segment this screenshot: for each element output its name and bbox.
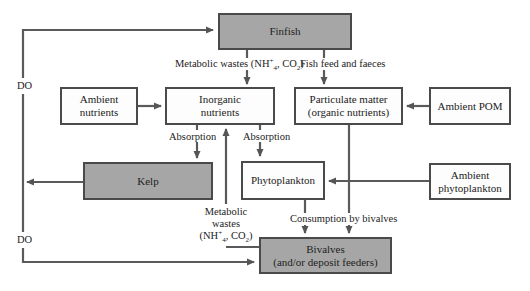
- inorganic-nutrients-label-line1: Inorganic: [199, 93, 241, 106]
- do-to-bivalves-arrow: [23, 248, 254, 262]
- kelp-box: Kelp: [83, 162, 213, 200]
- do-to-finfish-arrow: [23, 30, 213, 78]
- inorganic-nutrients-label-line2: nutrients: [201, 106, 240, 119]
- particulate-matter-label-line2: (organic nutrients): [308, 106, 389, 119]
- finfish-metabolic-wastes-label: Metabolic wastes (NH+4, CO2): [175, 58, 304, 70]
- absorption-left-label: Absorption: [169, 131, 216, 143]
- particulate-matter-label-line1: Particulate matter: [310, 93, 388, 106]
- ambient-pom-box: Ambient POM: [429, 87, 511, 125]
- ambient-nutrients-label-line2: nutrients: [80, 106, 119, 119]
- finfish-label: Finfish: [269, 25, 300, 38]
- inorganic-nutrients-box: Inorganic nutrients: [165, 87, 275, 125]
- ambient-nutrients-label-line1: Ambient: [80, 93, 119, 106]
- phytoplankton-label: Phytoplankton: [251, 174, 315, 187]
- fish-feed-label: Fish feed and faeces: [300, 58, 385, 70]
- ambient-nutrients-box: Ambient nutrients: [60, 87, 138, 125]
- bivalve-metabolic-wastes-label: Metabolic wastes (NH+4, CO2): [195, 206, 257, 242]
- kelp-label: Kelp: [137, 175, 158, 188]
- consumption-label: Consumption by bivalves: [289, 213, 398, 225]
- ambient-pom-label: Ambient POM: [437, 100, 502, 113]
- ambient-phytoplankton-box: Ambient phytoplankton: [429, 163, 511, 200]
- bivalves-label-line1: Bivalves: [306, 243, 345, 256]
- absorption-right-label: Absorption: [243, 131, 290, 143]
- particulate-matter-box: Particulate matter (organic nutrients): [294, 87, 403, 125]
- ambient-phyto-label-line2: phytoplankton: [438, 182, 502, 195]
- bivalves-label-line2: (and/or deposit feeders): [273, 256, 377, 269]
- do-label-top: DO: [17, 80, 32, 92]
- bivalves-box: Bivalves (and/or deposit feeders): [259, 237, 392, 274]
- phytoplankton-box: Phytoplankton: [241, 161, 325, 200]
- finfish-box: Finfish: [218, 13, 352, 50]
- do-label-bottom: DO: [17, 234, 32, 246]
- ambient-phyto-label-line1: Ambient: [451, 169, 490, 182]
